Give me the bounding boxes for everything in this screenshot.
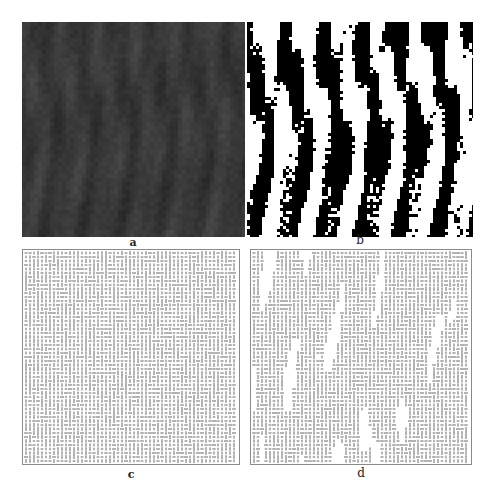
panel-c-label: c <box>128 469 135 480</box>
panel-c-vector-grid <box>22 249 240 465</box>
panel-b-label: b <box>356 235 364 246</box>
panel-d-label: d <box>357 468 365 479</box>
masked-vector-field-grid <box>251 250 471 464</box>
panel-a-grayscale-image <box>22 22 245 237</box>
binary-segmentation-image <box>247 22 473 237</box>
panel-b-binary-image <box>247 22 473 237</box>
panel-d-masked-vector-grid <box>250 249 472 465</box>
panel-a-label: a <box>129 237 136 248</box>
vector-field-grid <box>23 250 239 464</box>
grayscale-texture-image <box>22 22 245 237</box>
